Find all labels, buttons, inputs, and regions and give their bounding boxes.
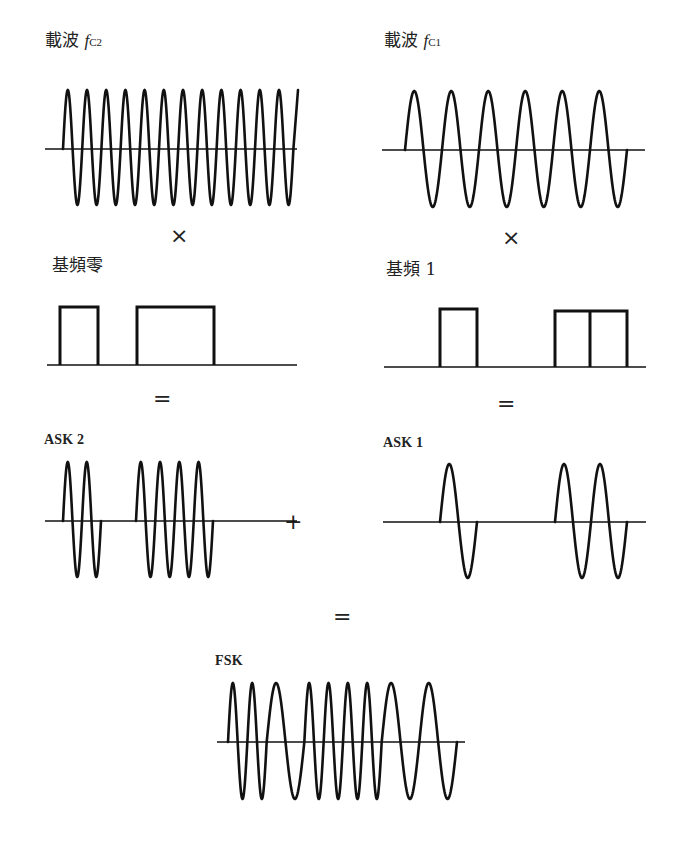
ask1-panel — [383, 464, 646, 578]
baseband-zero-panel — [47, 307, 297, 365]
baseband-zero-pulse — [137, 307, 214, 365]
diagram-canvas — [0, 0, 690, 845]
baseband-zero-pulse — [60, 307, 98, 365]
ask1-burst — [440, 464, 477, 578]
carrier-fc1-panel — [382, 91, 645, 207]
baseband-one-pulse — [440, 309, 477, 367]
carrier-fc2-panel — [45, 90, 298, 205]
carrier-fc2-waveform — [63, 90, 298, 205]
baseband-one-panel — [384, 309, 646, 367]
ask1-burst — [555, 464, 627, 578]
ask2-panel — [45, 462, 297, 577]
fsk-panel — [217, 683, 465, 799]
fsk-waveform — [228, 683, 457, 799]
carrier-fc1-waveform — [405, 91, 627, 207]
ask2-burst — [136, 462, 213, 577]
ask2-burst — [63, 462, 101, 577]
